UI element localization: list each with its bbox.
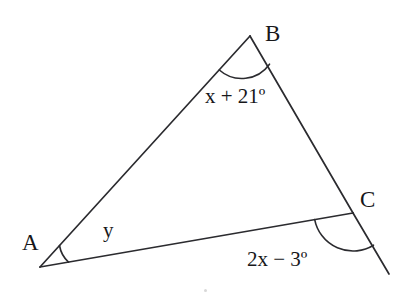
vertex-label-c: C [360,188,375,211]
angle-arc-B-icon [219,64,269,78]
side-BC [250,36,353,213]
angle-label-c-exterior: 2x − 3º [247,249,307,270]
vertex-label-a: A [22,231,39,254]
vertex-label-b: B [265,22,280,45]
ray-BC-extension-icon [353,213,389,274]
angle-label-a: y [103,220,114,241]
angle-arc-C-exterior-icon [315,220,374,251]
triangle-diagram-canvas [0,0,412,305]
angle-label-b: x + 21º [205,86,265,107]
geometry-figure: A B C x + 21º y 2x − 3º [0,0,412,305]
side-AB [40,36,250,267]
angle-arc-A-icon [60,246,69,263]
scan-artifact [204,289,207,292]
